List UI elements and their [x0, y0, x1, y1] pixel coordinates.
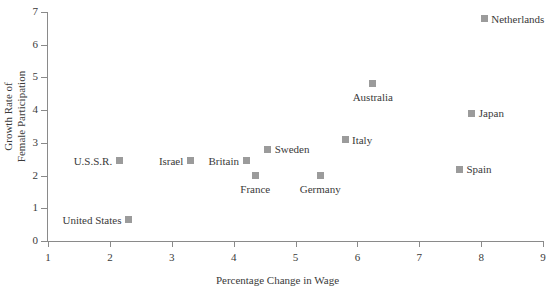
x-tick-label: 1 — [36, 251, 60, 263]
data-point-marker — [264, 146, 271, 153]
data-point-label: Sweden — [275, 143, 310, 155]
data-point-marker — [243, 157, 250, 164]
data-point-label: Britain — [208, 155, 239, 167]
y-tick — [41, 12, 47, 13]
data-point-label: Israel — [159, 155, 183, 167]
x-tick-label: 5 — [284, 251, 308, 263]
y-tick-label: 7 — [22, 6, 38, 17]
data-point-marker — [369, 80, 376, 87]
x-tick-label: 9 — [531, 251, 555, 263]
data-point-label: U.S.S.R. — [74, 155, 113, 167]
data-point-label: France — [240, 183, 270, 195]
x-tick-label: 2 — [98, 251, 122, 263]
data-point-label: Germany — [300, 183, 341, 195]
plot-area — [48, 12, 543, 242]
y-tick-label: 6 — [22, 39, 38, 50]
data-point-label: Spain — [466, 163, 491, 175]
y-tick — [41, 77, 47, 78]
y-tick — [41, 143, 47, 144]
data-point-marker — [116, 157, 123, 164]
x-tick-label: 7 — [407, 251, 431, 263]
y-tick — [41, 110, 47, 111]
y-axis-title: Growth Rate of Female Participation — [2, 51, 27, 183]
y-tick — [41, 176, 47, 177]
y-tick — [41, 241, 47, 242]
x-tick-label: 4 — [222, 251, 246, 263]
x-tick-label: 8 — [469, 251, 493, 263]
x-tick-label: 6 — [345, 251, 369, 263]
x-axis-title: Percentage Change in Wage — [0, 274, 555, 286]
y-tick-label: 0 — [22, 235, 38, 246]
data-point-marker — [342, 136, 349, 143]
y-tick — [41, 45, 47, 46]
data-point-marker — [252, 172, 259, 179]
x-tick — [543, 241, 544, 247]
data-point-marker — [187, 157, 194, 164]
data-point-label: Japan — [479, 107, 504, 119]
data-point-marker — [481, 15, 488, 22]
data-point-marker — [456, 166, 463, 173]
data-point-label: Italy — [352, 134, 372, 146]
data-point-label: Netherlands — [491, 13, 544, 25]
x-tick-label: 3 — [160, 251, 184, 263]
data-point-label: United States — [62, 214, 121, 226]
data-point-marker — [125, 216, 132, 223]
data-point-label: Australia — [353, 91, 393, 103]
data-point-marker — [468, 110, 475, 117]
scatter-chart: 01234567 123456789 Growth Rate of Female… — [0, 0, 555, 293]
y-tick-label: 1 — [22, 202, 38, 213]
y-tick — [41, 208, 47, 209]
data-point-marker — [317, 172, 324, 179]
